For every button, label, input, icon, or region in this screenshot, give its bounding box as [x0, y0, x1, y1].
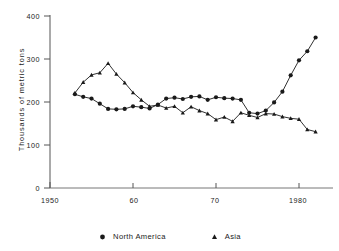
data-point-circle [255, 112, 259, 116]
data-point-circle [106, 107, 110, 111]
data-point-triangle [197, 109, 201, 113]
data-point-circle [114, 107, 118, 111]
data-point-triangle [106, 61, 110, 65]
data-point-triangle [222, 115, 226, 119]
data-point-circle [123, 107, 127, 111]
data-point-circle [272, 100, 276, 104]
data-point-triangle [239, 111, 243, 115]
y-axis [44, 15, 50, 188]
data-point-circle [189, 95, 193, 99]
data-point-circle [98, 102, 102, 106]
series-north-america [73, 35, 318, 115]
data-point-circle [239, 98, 243, 102]
data-point-circle [131, 104, 135, 108]
data-point-circle [81, 95, 85, 99]
series-asia [73, 61, 318, 133]
circle-marker-icon [98, 232, 107, 241]
data-point-triangle [189, 105, 193, 109]
data-series-layer [73, 35, 318, 133]
data-point-circle [89, 96, 93, 100]
data-point-circle [289, 73, 293, 77]
data-point-circle [222, 96, 226, 100]
legend-entry-north-america: North America [98, 232, 166, 241]
legend-entry-asia: Asia [210, 232, 241, 241]
data-point-circle [181, 97, 185, 101]
data-point-circle [280, 90, 284, 94]
data-point-circle [314, 35, 318, 39]
chart-container: Thousands of metric tons 400 300 200 100… [0, 0, 339, 251]
data-point-circle [164, 96, 168, 100]
data-point-circle [172, 96, 176, 100]
data-point-circle [214, 95, 218, 99]
legend-label-north-america: North America [113, 232, 166, 241]
data-point-circle [197, 94, 201, 98]
data-point-circle [231, 96, 235, 100]
legend-label-asia: Asia [225, 232, 241, 241]
data-point-circle [297, 58, 301, 62]
plot-area [0, 0, 339, 251]
data-point-triangle [172, 104, 176, 108]
data-point-circle [206, 98, 210, 102]
series-line [75, 38, 316, 114]
triangle-marker-icon [210, 232, 219, 241]
chart-legend: North America Asia [0, 232, 339, 241]
data-point-circle [139, 105, 143, 109]
x-axis [50, 182, 333, 188]
data-point-circle [305, 49, 309, 53]
series-line [75, 63, 316, 131]
